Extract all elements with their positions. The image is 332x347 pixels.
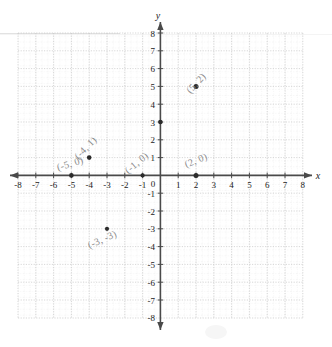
x-axis-arrow-right bbox=[304, 172, 312, 178]
y-tick-label: -8 bbox=[148, 313, 156, 323]
x-tick-label: 3 bbox=[212, 180, 217, 190]
y-axis-name: y bbox=[155, 10, 161, 21]
x-tick-label: -5 bbox=[68, 180, 76, 190]
data-point bbox=[194, 173, 199, 178]
y-tick-label: 8 bbox=[151, 29, 156, 39]
data-point bbox=[141, 173, 145, 177]
y-tick-label: 3 bbox=[151, 118, 156, 128]
data-point bbox=[158, 120, 163, 125]
y-tick-label: 7 bbox=[151, 46, 156, 56]
x-tick-label: -4 bbox=[85, 180, 93, 190]
page-smudge bbox=[205, 325, 227, 339]
y-tick-label: 6 bbox=[151, 64, 156, 74]
y-tick-label: -6 bbox=[148, 278, 156, 288]
coordinate-plane-figure: -8 -7 -6 -5 -4 -3 -2 -1 0 1 2 3 4 5 6 7 … bbox=[0, 0, 332, 347]
x-tick-label: 6 bbox=[265, 180, 270, 190]
data-point bbox=[69, 173, 74, 178]
x-tick-label: 8 bbox=[301, 180, 306, 190]
x-tick-label: 1 bbox=[176, 180, 181, 190]
y-tick-label: -2 bbox=[148, 207, 156, 217]
x-tick-label: -8 bbox=[14, 180, 22, 190]
x-tick-label: -1 bbox=[139, 180, 147, 190]
origin-label: 0 bbox=[151, 179, 156, 189]
y-axis-arrow-up bbox=[157, 22, 163, 30]
y-tick-label: -7 bbox=[148, 296, 156, 306]
x-tick-label: 4 bbox=[229, 180, 234, 190]
y-tick-label: -5 bbox=[148, 260, 156, 270]
y-tick-label: 1 bbox=[151, 153, 156, 163]
x-tick-label: -2 bbox=[121, 180, 129, 190]
y-axis-arrow-down bbox=[157, 322, 163, 330]
y-tick-label: -1 bbox=[148, 189, 156, 199]
data-point bbox=[87, 155, 92, 160]
x-axis-name: x bbox=[315, 170, 321, 181]
y-tick-label: 4 bbox=[151, 100, 156, 110]
y-tick-label: -4 bbox=[148, 242, 156, 252]
y-tick-label: -3 bbox=[148, 224, 156, 234]
x-tick-label: 5 bbox=[247, 180, 252, 190]
x-axis-arrow-left bbox=[10, 172, 18, 178]
x-tick-label: 7 bbox=[283, 180, 288, 190]
y-tick-label: 5 bbox=[151, 82, 156, 92]
x-tick-label: -7 bbox=[32, 180, 40, 190]
x-tick-label: 2 bbox=[194, 180, 199, 190]
graph-svg: -8 -7 -6 -5 -4 -3 -2 -1 0 1 2 3 4 5 6 7 … bbox=[0, 0, 332, 347]
y-tick-label: 2 bbox=[151, 135, 156, 145]
x-tick-label: -3 bbox=[103, 180, 111, 190]
x-tick-label: -6 bbox=[50, 180, 58, 190]
